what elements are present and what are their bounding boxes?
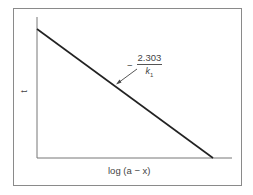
slope-fraction: 2.303 k1 — [137, 53, 163, 77]
slope-sign: − — [127, 60, 133, 71]
rate-constant-subscript: 1 — [150, 71, 153, 77]
data-line — [37, 29, 213, 158]
arrowhead-icon — [116, 80, 122, 85]
slope-annotation: − 2.303 k1 — [127, 53, 162, 77]
slope-numerator: 2.303 — [137, 53, 163, 65]
slope-denominator: k1 — [146, 65, 154, 78]
y-axis-label: t — [18, 90, 29, 93]
x-axis-label: log (a − x) — [108, 165, 151, 176]
